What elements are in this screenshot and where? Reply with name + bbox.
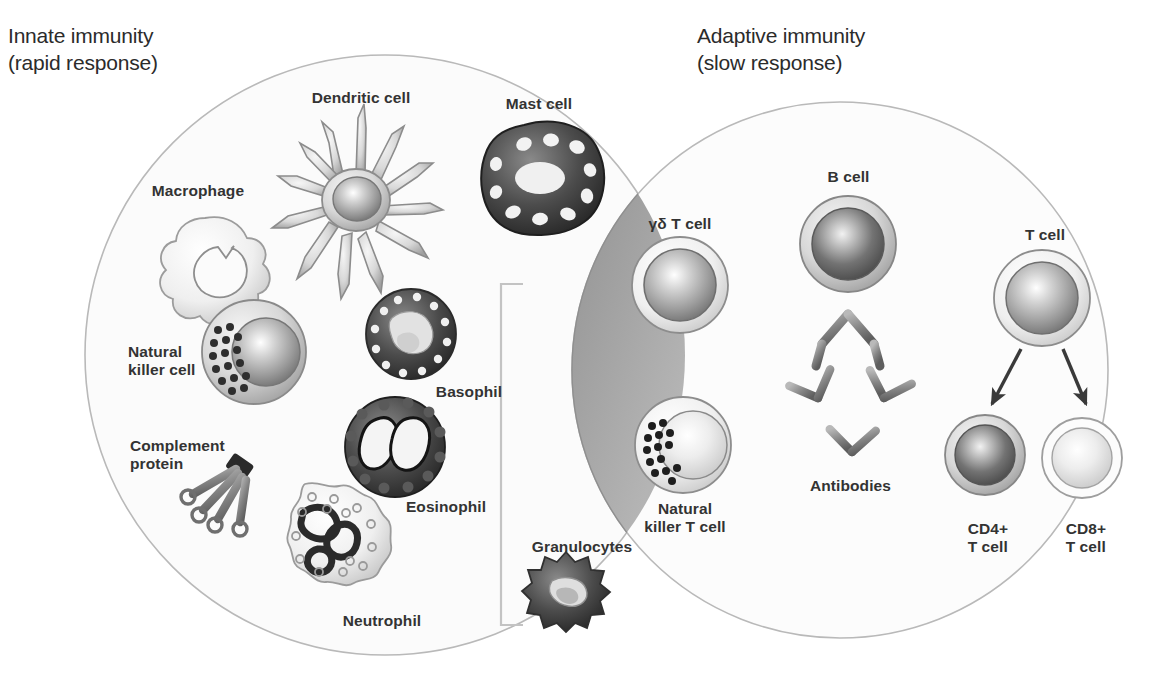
immune-system-venn-diagram: Innate immunity(rapid response) Adaptive… [0, 0, 1174, 685]
label-gamma-delta-t-cell: γδ T cell [625, 215, 735, 233]
label-antibodies: Antibodies [788, 477, 913, 495]
label-granulocytes: Granulocytes [512, 538, 652, 556]
label-natural-killer-t-cell: Naturalkiller T cell [620, 500, 750, 536]
label-b-cell: B cell [796, 168, 901, 186]
adaptive-immunity-header: Adaptive immunity(slow response) [697, 22, 865, 76]
mast-cell [481, 122, 604, 235]
label-natural-killer-cell: Naturalkiller cell [128, 343, 248, 379]
label-cd8-t-cell: CD8+ T cell [1048, 502, 1148, 574]
eosinophil-cell [345, 397, 446, 497]
label-dendritic-cell: Dendritic cell [286, 89, 436, 107]
label-cd4-t-cell: CD4+ T cell [950, 502, 1050, 574]
gamma-delta-t-cell [632, 237, 728, 333]
t-cell [994, 250, 1090, 346]
label-macrophage: Macrophage [133, 182, 263, 200]
label-neutrophil: Neutrophil [322, 612, 442, 630]
cd4-t-cell [945, 415, 1025, 495]
natural-killer-t-cell [635, 397, 731, 493]
basophil-cell [366, 289, 456, 379]
cd8-t-cell [1042, 418, 1122, 498]
label-t-cell: T cell [1000, 226, 1090, 244]
innate-immunity-header: Innate immunity(rapid response) [8, 22, 158, 76]
label-mast-cell: Mast cell [479, 95, 599, 113]
label-complement-protein: Complementprotein [130, 437, 290, 473]
label-basophil: Basophil [414, 383, 524, 401]
label-eosinophil: Eosinophil [386, 498, 506, 516]
